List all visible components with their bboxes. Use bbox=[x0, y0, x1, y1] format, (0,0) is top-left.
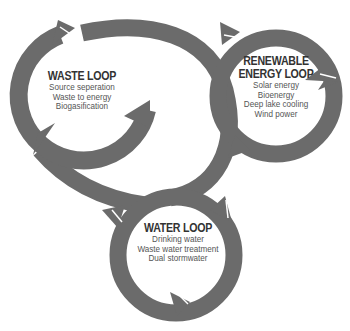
energy-loop-label: RENEWABLE ENERGY LOOP Solar energy Bioen… bbox=[218, 55, 334, 119]
waste-loop-item: Biogasification bbox=[28, 102, 136, 111]
waste-loop-label: WASTE LOOP Source seperation Waste to en… bbox=[22, 70, 142, 111]
loops-diagram bbox=[0, 0, 350, 331]
water-loop-item: Dual stormwater bbox=[124, 254, 232, 263]
connector-waste-to-water-band bbox=[82, 28, 229, 198]
energy-loop-item: Wind power bbox=[224, 110, 328, 119]
water-loop-label: WATER LOOP Drinking water Waste water tr… bbox=[118, 222, 238, 263]
